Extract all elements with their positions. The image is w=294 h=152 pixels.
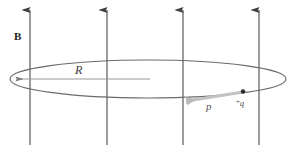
radius-label: R [75, 64, 82, 76]
charge-point-dot [241, 89, 245, 93]
figure-canvas [0, 0, 294, 152]
charge-label: +q [236, 99, 244, 108]
physics-figure: B R p +q [0, 0, 294, 152]
momentum-label: p [206, 101, 212, 112]
charge-symbol: q [240, 99, 244, 108]
magnetic-field-lines [30, 10, 259, 145]
magnetic-field-label: B [14, 31, 21, 42]
